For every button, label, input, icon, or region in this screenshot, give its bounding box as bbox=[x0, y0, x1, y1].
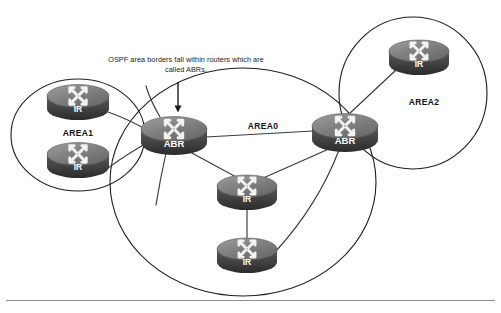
area-label-area2: AREA2 bbox=[409, 97, 440, 107]
link-abr-left-stub-lower bbox=[156, 153, 166, 205]
router-label: ABR bbox=[164, 138, 185, 149]
router-ir-area0-bottom[interactable]: IR bbox=[217, 238, 277, 273]
router-label: IR bbox=[74, 104, 83, 114]
router-ir-area2[interactable]: IR bbox=[389, 40, 449, 75]
link-abr-right-to-ir-area0-mid bbox=[261, 148, 331, 179]
router-abr-right[interactable]: ABR bbox=[312, 114, 378, 153]
ospf-network-diagram: OSPF area borders fall within routers wh… bbox=[0, 0, 501, 313]
network-links bbox=[108, 70, 396, 251]
link-abr-right-to-ir-area0-bottom bbox=[276, 150, 339, 251]
router-ir-area0-mid[interactable]: IR bbox=[217, 175, 277, 210]
router-label: IR bbox=[74, 162, 83, 172]
router-label: ABR bbox=[335, 135, 356, 146]
link-abr-left-to-abr-right bbox=[206, 131, 313, 137]
diagram-canvas: OSPF area borders fall within routers wh… bbox=[0, 0, 501, 313]
area-label-area0: AREA0 bbox=[248, 121, 279, 131]
router-abr-left[interactable]: ABR bbox=[141, 117, 207, 156]
router-label: IR bbox=[415, 59, 424, 69]
router-label: IR bbox=[243, 194, 252, 204]
link-abr-right-to-ir-area2 bbox=[349, 70, 396, 114]
router-label: IR bbox=[243, 257, 252, 267]
callout-text-line1: OSPF area borders fall within routers wh… bbox=[108, 55, 264, 64]
router-nodes: IR IR ABR bbox=[47, 40, 449, 273]
area-label-area1: AREA1 bbox=[63, 128, 94, 138]
callout-annotation: OSPF area borders fall within routers wh… bbox=[108, 55, 264, 111]
link-abr-left-to-ir-area0-mid bbox=[190, 152, 238, 178]
callout-text-line2: called ABRs. bbox=[165, 65, 207, 74]
router-ir-area1-bottom[interactable]: IR bbox=[47, 143, 109, 179]
router-ir-area1-top[interactable]: IR bbox=[47, 85, 109, 121]
area-labels: AREA1 AREA0 AREA2 bbox=[63, 97, 440, 138]
